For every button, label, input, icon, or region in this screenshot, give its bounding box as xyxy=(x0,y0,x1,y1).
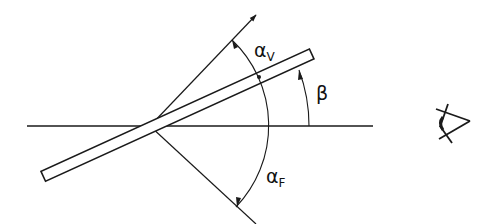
angle-diagram: αV β αF xyxy=(0,0,487,224)
beta-label: β xyxy=(316,82,328,104)
alpha-f-label: αF xyxy=(266,165,286,190)
beta-arrowhead xyxy=(298,70,303,80)
alpha-arc xyxy=(232,40,269,207)
alpha-arc-plate-dot xyxy=(257,75,261,79)
lower-ray xyxy=(150,126,256,224)
alpha-v-label: αV xyxy=(254,39,276,64)
plate xyxy=(41,49,314,181)
eye-icon xyxy=(436,104,470,143)
